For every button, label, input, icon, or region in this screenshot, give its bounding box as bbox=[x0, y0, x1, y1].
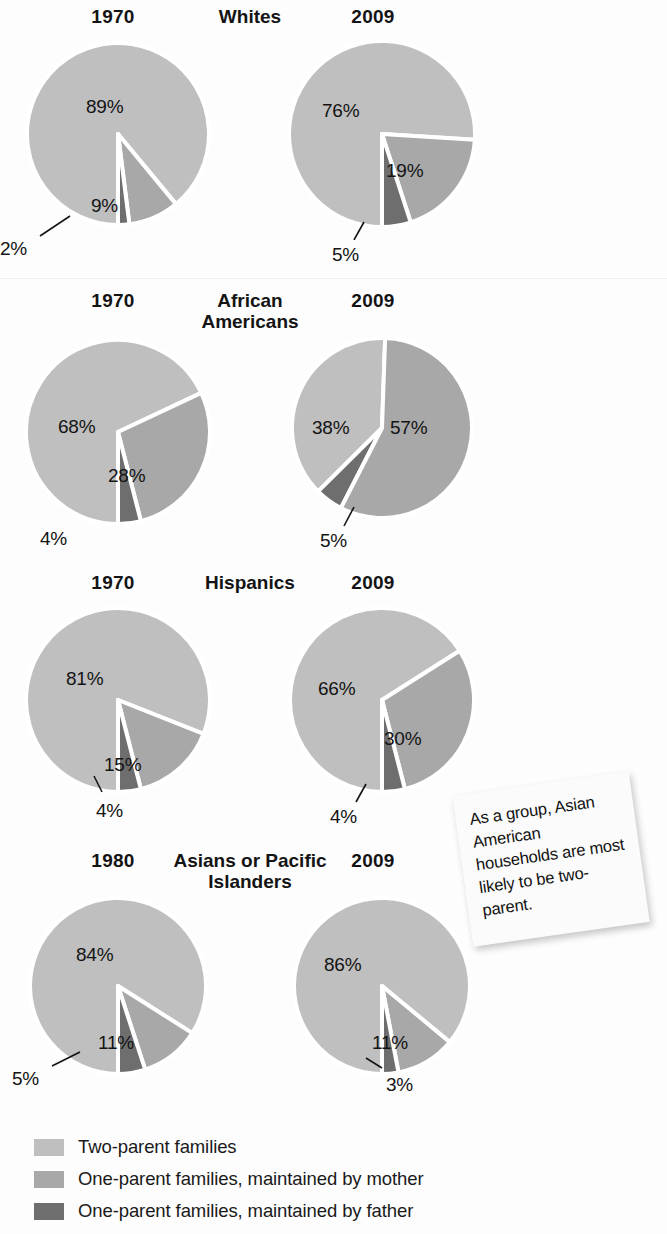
pie-slice-value-label: 11% bbox=[372, 1032, 408, 1054]
pie-slice-value-label: 76% bbox=[322, 100, 359, 122]
legend-swatch-icon bbox=[34, 1139, 64, 1156]
pie-slice-value-label: 9% bbox=[91, 195, 118, 217]
pie-slice-value-label: 4% bbox=[330, 806, 357, 828]
group-right-year: 2009 bbox=[338, 290, 408, 312]
legend-item-label: Two-parent families bbox=[78, 1136, 237, 1158]
group-whites: 1970 Whites 2009 89%9%2% 76%19%5% bbox=[0, 4, 667, 50]
scan-artifact bbox=[0, 278, 667, 279]
pie-slice-value-label: 5% bbox=[12, 1068, 39, 1090]
legend-item-two-parent[interactable]: Two-parent families bbox=[34, 1131, 634, 1163]
callout-text: As a group, Asian American households ar… bbox=[468, 787, 635, 922]
group-right-year: 2009 bbox=[338, 572, 408, 594]
legend-item-father[interactable]: One-parent families, maintained by fathe… bbox=[34, 1195, 634, 1227]
group-left-year: 1970 bbox=[78, 290, 148, 312]
legend-swatch-icon bbox=[34, 1171, 64, 1188]
chart-page: 1970 Whites 2009 89%9%2% 76%19%5% 1970 A… bbox=[0, 0, 667, 1234]
chart-legend: Two-parent families One-parent families,… bbox=[34, 1131, 634, 1227]
pie-slice-value-label: 19% bbox=[386, 160, 423, 182]
pie-slice-value-label: 5% bbox=[320, 530, 347, 552]
legend-item-label: One-parent families, maintained by mothe… bbox=[78, 1168, 424, 1190]
pie-slice-value-label: 4% bbox=[96, 800, 123, 822]
group-right-year: 2009 bbox=[338, 850, 408, 872]
pie-chart-african-americans-1970[interactable]: 68%28%4% bbox=[18, 338, 218, 538]
pie-slice-value-label: 81% bbox=[66, 668, 103, 690]
pie-slice-value-label: 2% bbox=[0, 238, 27, 260]
pie-slice-value-label: 84% bbox=[76, 944, 113, 966]
group-header: 1970 African Americans 2009 bbox=[0, 288, 667, 334]
pie-slice-value-label: 4% bbox=[40, 528, 67, 550]
pie-slice-value-label: 11% bbox=[98, 1032, 134, 1054]
legend-item-label: One-parent families, maintained by fathe… bbox=[78, 1200, 413, 1222]
pie-slice-value-label: 89% bbox=[86, 96, 123, 118]
group-title: African Americans bbox=[168, 290, 332, 332]
group-left-year: 1970 bbox=[78, 6, 148, 28]
group-title: Whites bbox=[168, 6, 332, 27]
legend-item-mother[interactable]: One-parent families, maintained by mothe… bbox=[34, 1163, 634, 1195]
pie-slice-value-label: 3% bbox=[386, 1074, 413, 1096]
pie-slice-value-label: 30% bbox=[384, 728, 421, 750]
pie-chart-african-americans-2009[interactable]: 38%57%5% bbox=[282, 334, 482, 534]
pie-chart-asians-1980[interactable]: 84%11%5% bbox=[18, 892, 218, 1092]
group-right-year: 2009 bbox=[338, 6, 408, 28]
group-title: Hispanics bbox=[168, 572, 332, 593]
legend-swatch-icon bbox=[34, 1203, 64, 1220]
group-title: Asians or Pacific Islanders bbox=[168, 850, 332, 892]
group-left-year: 1970 bbox=[78, 572, 148, 594]
pie-chart-whites-2009[interactable]: 76%19%5% bbox=[282, 40, 482, 240]
pie-slice-value-label: 15% bbox=[104, 754, 141, 776]
pie-slice-value-label: 38% bbox=[312, 417, 349, 439]
pie-slice-value-label: 66% bbox=[318, 678, 355, 700]
pie-slice-value-label: 68% bbox=[58, 416, 95, 438]
pie-slice-value-label: 57% bbox=[390, 417, 427, 439]
group-left-year: 1980 bbox=[78, 850, 148, 872]
callout-sticky-note: As a group, Asian American households ar… bbox=[452, 771, 649, 946]
pie-slice-value-label: 5% bbox=[332, 244, 359, 266]
pie-slice-value-label: 28% bbox=[108, 465, 145, 487]
pie-chart-hispanics-1970[interactable]: 81%15%4% bbox=[18, 606, 218, 806]
pie-slice-value-label: 86% bbox=[324, 954, 361, 976]
group-african-americans: 1970 African Americans 2009 68%28%4% 38%… bbox=[0, 288, 667, 334]
pie-chart-whites-1970[interactable]: 89%9%2% bbox=[18, 40, 218, 240]
pie-chart-hispanics-2009[interactable]: 66%30%4% bbox=[282, 606, 482, 806]
group-hispanics: 1970 Hispanics 2009 81%15%4% 66%30%4% bbox=[0, 570, 667, 616]
pie-chart-asians-2009[interactable]: 86%11%3% bbox=[282, 892, 482, 1092]
